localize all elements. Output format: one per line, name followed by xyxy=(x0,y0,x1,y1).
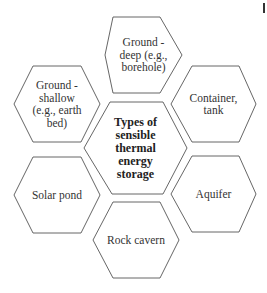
label-line: shallow xyxy=(32,92,81,105)
label-line: deep (e.g., xyxy=(120,49,168,62)
label-line: energy xyxy=(114,155,157,168)
node-label-bottom: Rock cavern xyxy=(93,202,179,278)
page-edge-mark xyxy=(263,3,265,13)
node-label-lower-right: Aquifer xyxy=(171,156,256,232)
label-line: Ground - xyxy=(120,36,168,49)
label-line: tank xyxy=(190,104,238,117)
label-line: Types of xyxy=(114,116,157,129)
node-label-lower-left: Solar pond xyxy=(14,157,100,233)
label-line: bed) xyxy=(32,117,81,130)
label-line: sensible xyxy=(114,129,157,142)
label-line: Container, xyxy=(190,92,238,105)
label-line: storage xyxy=(114,168,157,181)
label-line: thermal xyxy=(114,142,157,155)
label-line: Ground - xyxy=(32,79,81,92)
label-line: Aquifer xyxy=(196,188,232,201)
label-line: Rock cavern xyxy=(107,234,165,247)
label-line: (e.g., earth xyxy=(32,104,81,117)
label-line: borehole) xyxy=(120,61,168,74)
label-line: Solar pond xyxy=(32,189,82,202)
